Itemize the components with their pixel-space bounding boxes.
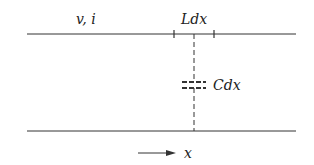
label-capacitance: Cdx xyxy=(213,77,241,93)
transmission-line-diagram: v, i Ldx Cdx x xyxy=(0,0,314,165)
label-inductance: Ldx xyxy=(180,11,207,27)
label-axis-x: x xyxy=(184,145,192,161)
label-voltage-current: v, i xyxy=(76,11,96,27)
arrowhead-icon xyxy=(166,150,176,156)
